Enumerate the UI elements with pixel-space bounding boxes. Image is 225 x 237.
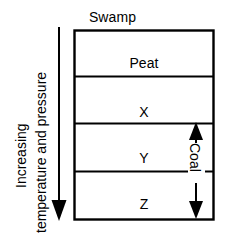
left-axis-label-line1: Increasing [14, 123, 28, 188]
left-axis-arrow-head-down [52, 200, 67, 221]
layer-label-peat: Peat [74, 56, 214, 70]
left-axis-label-line2: temperature and pressure [34, 72, 48, 233]
layer-label-x: X [74, 105, 214, 119]
layer-label-z: Z [74, 197, 214, 211]
coal-bracket-label: Coal [188, 143, 202, 172]
coal-formation-diagram: Swamp Peat X Y Z Increasing temperature … [0, 0, 225, 237]
swamp-label: Swamp [0, 10, 225, 24]
